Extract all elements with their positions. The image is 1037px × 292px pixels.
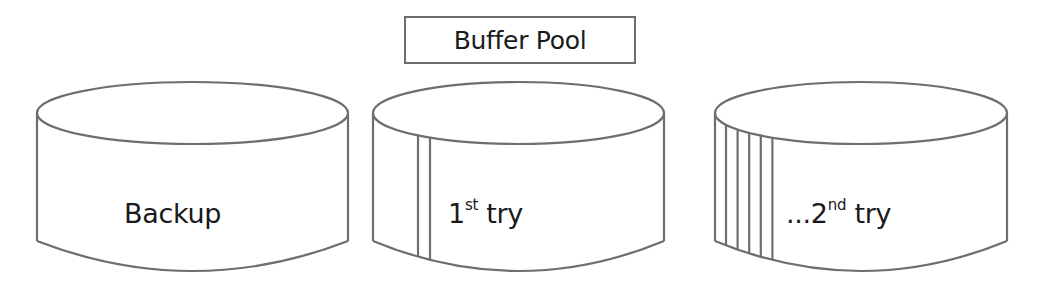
second-try-label-word: try [846, 198, 891, 229]
first-try-top-ellipse [373, 82, 664, 144]
first-try-cylinder [373, 82, 664, 271]
first-try-label-ordinal: st [465, 196, 478, 214]
second-try-label-ordinal: nd [828, 196, 846, 214]
second-try-cylinder [715, 82, 1007, 271]
backup-label: Backup [124, 198, 221, 229]
second-try-top-ellipse [715, 82, 1007, 144]
first-try-label-word: try [478, 198, 523, 229]
buffer-pool-box: Buffer Pool [404, 16, 636, 64]
second-try-label: ...2nd try [786, 198, 891, 229]
first-try-label-number: 1 [448, 198, 465, 229]
second-try-label-number: ...2 [786, 198, 828, 229]
buffer-pool-label: Buffer Pool [454, 26, 587, 55]
backup-cylinder [37, 82, 348, 271]
backup-label-text: Backup [124, 198, 221, 229]
backup-top-ellipse [37, 82, 348, 144]
first-try-label: 1st try [448, 198, 523, 229]
